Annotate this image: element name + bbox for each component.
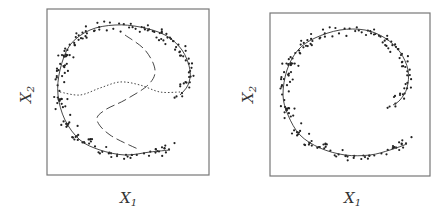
data-point bbox=[385, 153, 387, 155]
data-point bbox=[158, 39, 160, 41]
data-point bbox=[73, 42, 75, 44]
data-point bbox=[297, 65, 299, 67]
data-point bbox=[284, 117, 286, 119]
data-point bbox=[367, 158, 369, 160]
data-point bbox=[308, 133, 310, 135]
svg-text:X2: X2 bbox=[239, 86, 258, 104]
data-point bbox=[387, 107, 389, 109]
data-point bbox=[73, 138, 75, 140]
data-point bbox=[184, 45, 186, 47]
data-point bbox=[91, 138, 93, 140]
data-point bbox=[69, 54, 71, 56]
data-point bbox=[293, 129, 295, 131]
data-point bbox=[180, 54, 182, 56]
data-point bbox=[331, 35, 333, 37]
data-point bbox=[389, 105, 391, 107]
data-point bbox=[179, 51, 181, 53]
data-point bbox=[281, 63, 283, 65]
data-point bbox=[65, 126, 67, 128]
data-point bbox=[304, 144, 306, 146]
data-point bbox=[175, 46, 177, 48]
data-point bbox=[407, 55, 409, 57]
data-point bbox=[78, 39, 80, 41]
right-y-axis-label: X2 bbox=[239, 86, 258, 104]
data-point bbox=[392, 145, 394, 147]
data-point bbox=[310, 33, 312, 35]
data-point bbox=[56, 102, 58, 104]
data-point bbox=[164, 43, 166, 45]
dashed-curve bbox=[97, 35, 155, 150]
data-point bbox=[67, 70, 69, 72]
data-point bbox=[110, 156, 112, 158]
data-point bbox=[402, 147, 404, 149]
data-point bbox=[162, 39, 164, 41]
data-point bbox=[287, 107, 289, 109]
data-point bbox=[66, 63, 68, 65]
data-point bbox=[57, 54, 59, 56]
data-point bbox=[399, 57, 401, 59]
data-point bbox=[285, 62, 287, 64]
left-x-axis-label: X1 bbox=[119, 189, 137, 208]
data-point bbox=[404, 66, 406, 68]
data-point bbox=[109, 22, 111, 24]
data-point bbox=[84, 35, 86, 37]
data-point bbox=[401, 142, 403, 144]
data-point bbox=[89, 138, 91, 140]
data-point bbox=[409, 69, 411, 71]
data-point bbox=[401, 61, 403, 63]
data-point bbox=[116, 155, 118, 157]
chart-figure: X1 X1 X2 X2 bbox=[0, 0, 447, 216]
data-point bbox=[147, 24, 149, 26]
data-point bbox=[128, 26, 130, 28]
data-point bbox=[192, 75, 194, 77]
data-point bbox=[97, 151, 99, 153]
data-point bbox=[345, 35, 347, 37]
data-point bbox=[356, 26, 358, 28]
dotted-curve bbox=[60, 82, 180, 95]
data-point bbox=[165, 33, 167, 35]
data-point bbox=[387, 47, 389, 49]
data-point bbox=[63, 50, 65, 52]
data-point bbox=[64, 48, 66, 50]
data-point bbox=[402, 65, 404, 67]
data-point bbox=[310, 43, 312, 45]
data-point bbox=[284, 111, 286, 113]
data-point bbox=[191, 62, 193, 64]
data-point bbox=[130, 23, 132, 25]
data-point bbox=[326, 143, 328, 145]
data-point bbox=[179, 83, 181, 85]
data-point bbox=[96, 22, 98, 24]
data-point bbox=[290, 64, 292, 66]
data-point bbox=[324, 36, 326, 38]
data-point bbox=[135, 28, 137, 30]
data-point bbox=[354, 30, 356, 32]
data-point bbox=[161, 146, 163, 148]
data-point bbox=[94, 29, 96, 31]
data-point bbox=[382, 41, 384, 43]
data-point bbox=[405, 83, 407, 85]
left-y-axis-label: X2 bbox=[17, 86, 36, 104]
data-point bbox=[56, 75, 58, 77]
data-point bbox=[106, 29, 108, 31]
data-point bbox=[384, 40, 386, 42]
data-point bbox=[334, 27, 336, 29]
data-point bbox=[294, 63, 296, 65]
data-point bbox=[361, 31, 363, 33]
data-point bbox=[63, 81, 65, 83]
data-point bbox=[85, 25, 87, 27]
data-point bbox=[291, 132, 293, 134]
data-point bbox=[386, 35, 388, 37]
data-point bbox=[302, 46, 304, 48]
data-point bbox=[322, 143, 324, 145]
data-point bbox=[283, 71, 285, 73]
data-point bbox=[127, 156, 129, 158]
data-point bbox=[64, 105, 66, 107]
data-point bbox=[410, 78, 412, 80]
data-point bbox=[407, 60, 409, 62]
data-point bbox=[338, 32, 340, 34]
data-point bbox=[175, 95, 177, 97]
data-point bbox=[98, 29, 100, 31]
data-point bbox=[311, 40, 313, 42]
data-point bbox=[112, 28, 114, 30]
data-point bbox=[185, 50, 187, 52]
